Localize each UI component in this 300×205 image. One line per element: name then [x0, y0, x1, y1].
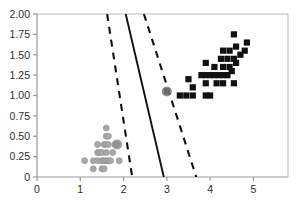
- data-point-square: [190, 92, 196, 98]
- svm-scatter-figure: 00.250.500.751.001.251.501.752.00012345: [0, 0, 300, 205]
- x-tick-label: 1: [77, 183, 83, 195]
- support-vector-upper: [162, 86, 172, 96]
- data-point-square: [244, 39, 250, 45]
- y-tick-label: 0.25: [10, 150, 31, 162]
- plot-canvas: 00.250.500.751.001.251.501.752.00012345: [0, 0, 300, 205]
- data-point-square: [207, 92, 213, 98]
- x-tick-label: 5: [250, 183, 256, 195]
- data-point-square: [185, 76, 191, 82]
- data-point-circle: [108, 158, 114, 164]
- axis-frame: [37, 14, 288, 177]
- data-point-square: [233, 44, 239, 50]
- data-point-circle: [103, 150, 109, 156]
- x-tick-label: 2: [121, 183, 127, 195]
- data-point-square: [211, 64, 217, 70]
- data-point-square: [203, 80, 209, 86]
- data-point-square: [224, 56, 230, 62]
- data-point-square: [231, 56, 237, 62]
- data-point-circle: [105, 133, 111, 139]
- data-point-circle: [103, 125, 109, 131]
- data-point-square: [242, 48, 248, 54]
- y-tick-label: 1.50: [10, 49, 31, 61]
- data-point-square: [231, 80, 237, 86]
- data-point-square: [218, 56, 224, 62]
- data-point-square: [220, 48, 226, 54]
- x-tick-label: 0: [34, 183, 40, 195]
- y-tick-label: 0.50: [10, 130, 31, 142]
- line-decision-boundary: [126, 14, 164, 177]
- support-vector-lower: [112, 139, 122, 149]
- y-axis-ticks: 00.250.500.751.001.251.501.752.00: [10, 8, 37, 183]
- data-point-square: [226, 48, 232, 54]
- x-axis-ticks: 012345: [34, 177, 256, 195]
- data-point-square: [231, 31, 237, 37]
- x-tick-label: 4: [207, 183, 213, 195]
- data-point-circle: [90, 166, 96, 172]
- plot-area: [82, 14, 250, 177]
- support-vectors: [112, 86, 172, 149]
- data-point-square: [226, 64, 232, 70]
- data-point-circle: [110, 150, 116, 156]
- data-point-circle: [82, 158, 88, 164]
- y-tick-label: 1.00: [10, 89, 31, 101]
- series-class-b: [164, 31, 250, 98]
- data-point-square: [190, 84, 196, 90]
- y-tick-label: 0.75: [10, 110, 31, 122]
- data-point-square: [177, 92, 183, 98]
- data-point-square: [213, 80, 219, 86]
- data-point-square: [220, 80, 226, 86]
- data-point-square: [203, 60, 209, 66]
- data-point-circle: [101, 166, 107, 172]
- y-tick-label: 2.00: [10, 8, 31, 20]
- data-point-circle: [105, 141, 111, 147]
- y-tick-label: 1.75: [10, 28, 31, 40]
- data-point-square: [183, 92, 189, 98]
- plot-frame-top-right: [37, 14, 288, 177]
- y-tick-label: 1.25: [10, 69, 31, 81]
- data-point-circle: [95, 141, 101, 147]
- y-tick-label: 0: [24, 171, 30, 183]
- data-point-circle: [116, 158, 122, 164]
- data-point-square: [220, 64, 226, 70]
- x-tick-label: 3: [164, 183, 170, 195]
